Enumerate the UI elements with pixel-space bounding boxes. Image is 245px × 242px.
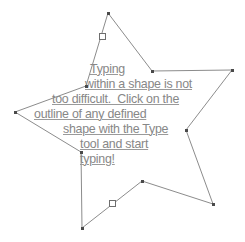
anchor-point-bottom-right-point[interactable] (212, 203, 215, 206)
star-outline[interactable] (15, 13, 232, 228)
anchor-point-bottom-left-point[interactable] (81, 227, 84, 230)
anchor-point-upper-left-inner[interactable] (85, 85, 88, 88)
anchor-point-lower-right-inner[interactable] (185, 129, 188, 132)
star-shape-layer[interactable] (0, 0, 245, 242)
anchor-point-bottom-inner[interactable] (141, 180, 144, 183)
anchor-point-lower-left-inner[interactable] (80, 151, 83, 154)
segment-handle-upper-left[interactable] (99, 33, 106, 40)
anchor-point-top-point[interactable] (107, 12, 110, 15)
segment-handle-lower[interactable] (109, 200, 116, 207)
anchor-point-left-point[interactable] (14, 111, 17, 114)
illustration-canvas: Typing within a shape is not too difficu… (0, 0, 245, 242)
anchor-point-upper-right-inner[interactable] (151, 70, 154, 73)
anchor-point-right-point[interactable] (231, 69, 234, 72)
